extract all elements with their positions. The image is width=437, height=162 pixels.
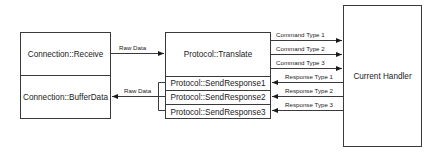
- response-type-2-label: Response Type 2: [285, 87, 333, 94]
- raw-data-out-label: Raw Data: [124, 87, 151, 94]
- command-type-3-label: Command Type 3: [276, 59, 325, 66]
- command-type-2-label: Command Type 2: [276, 45, 325, 52]
- raw-data-in-label: Raw Data: [119, 44, 146, 51]
- connector-lines: [0, 0, 437, 162]
- response-type-3-label: Response Type 3: [285, 101, 333, 108]
- response-type-1-label: Response Type 1: [285, 73, 333, 80]
- command-type-1-label: Command Type 1: [276, 31, 325, 38]
